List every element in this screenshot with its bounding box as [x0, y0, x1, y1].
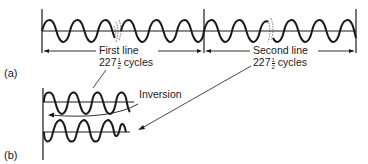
- inversion-label: Inversion: [139, 89, 182, 100]
- first-line-cycles-fraction: 12: [118, 57, 121, 70]
- first-line-cycles-int: 227: [99, 56, 117, 68]
- upper-wave: [44, 92, 130, 113]
- panel-a-label: (a): [4, 68, 17, 79]
- second-line-cycles-int: 227: [253, 56, 271, 68]
- panel-a-waveform: [42, 9, 356, 53]
- first-line-leader: [93, 70, 106, 88]
- panel-b-label: (b): [4, 150, 17, 161]
- panel-b-waveform: [43, 66, 251, 160]
- second-line-cycles-unit: cycles: [278, 56, 307, 68]
- first-line-cycles-unit: cycles: [124, 56, 153, 68]
- second-line-cycles: 22712 cycles: [253, 57, 307, 70]
- first-line-cycles: 22712 cycles: [99, 57, 153, 70]
- diagram-drawing: [0, 0, 368, 164]
- lower-wave: [44, 120, 126, 141]
- first-line-title: First line: [99, 45, 139, 56]
- second-line-cycles-fraction: 12: [272, 57, 275, 70]
- second-line-title: Second line: [253, 45, 308, 56]
